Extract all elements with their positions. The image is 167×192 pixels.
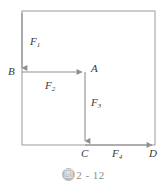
point-label-d: D: [149, 148, 157, 159]
force-label-f1: F1: [30, 36, 40, 47]
force-label-f3: F3: [91, 97, 101, 108]
force-label-f4: F4: [112, 148, 122, 159]
point-label-b: B: [8, 66, 15, 77]
figure-badge-icon: 图: [62, 168, 75, 181]
force-label-f2: F2: [45, 80, 55, 91]
point-label-c: C: [81, 148, 88, 159]
force-diagram: [0, 0, 167, 192]
figure-caption-text: 2 - 12: [76, 169, 105, 181]
figure-container: F1 F2 F3 F4 B A C D 图 2 - 12: [0, 0, 167, 192]
outer-rectangle: [22, 11, 155, 145]
figure-caption: 图 2 - 12: [0, 168, 167, 181]
point-label-a: A: [91, 63, 98, 74]
